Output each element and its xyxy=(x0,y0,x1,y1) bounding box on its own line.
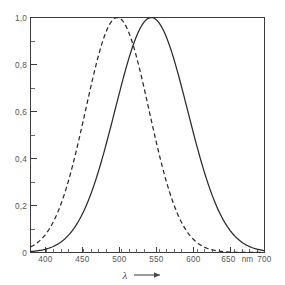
y-axis: 1,0 0,8 0,6 0,4 0,2 0 xyxy=(15,14,36,258)
x-tick-label-400: 400 xyxy=(38,255,53,264)
x-axis-title: λ xyxy=(122,269,128,281)
x-tick-label-650: 650 xyxy=(221,255,236,264)
x-tick-label-550: 550 xyxy=(149,255,164,264)
x-tick-label-450: 450 xyxy=(75,255,90,264)
spectral-plot: 1,0 0,8 0,6 0,4 0,2 0 400 450 500 550 60… xyxy=(0,0,285,285)
series-dashed-curve xyxy=(31,18,264,253)
x-axis-unit-label: nm xyxy=(242,255,254,264)
series-solid-curve xyxy=(31,18,264,252)
plot-frame xyxy=(31,18,265,253)
y-tick-label-02: 0,2 xyxy=(15,202,27,211)
x-tick-group-major xyxy=(46,247,265,253)
y-tick-label-1: 1,0 xyxy=(15,14,27,23)
y-tick-label-08: 0,8 xyxy=(15,61,27,70)
x-tick-label-700: 700 xyxy=(257,255,272,264)
x-tick-group-minor xyxy=(47,249,258,253)
x-axis-title-group: λ xyxy=(122,269,160,281)
x-tick-label-500: 500 xyxy=(112,255,127,264)
x-axis-arrow-head-icon xyxy=(154,272,160,278)
x-tick-label-600: 600 xyxy=(186,255,201,264)
y-tick-group-major xyxy=(31,18,37,253)
x-axis: 400 450 500 550 600 650 nm 700 xyxy=(38,247,272,265)
y-tick-label-04: 0,4 xyxy=(15,155,27,164)
chart-figure: 1,0 0,8 0,6 0,4 0,2 0 400 450 500 550 60… xyxy=(0,0,285,285)
y-tick-group-minor xyxy=(31,42,35,230)
y-tick-label-06: 0,6 xyxy=(15,108,27,117)
y-tick-label-0: 0 xyxy=(22,249,27,258)
